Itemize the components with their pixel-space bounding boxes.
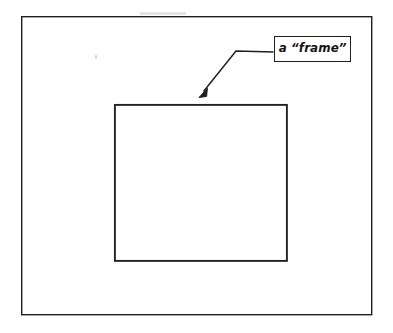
diagram-canvas: a “frame”	[0, 0, 393, 333]
callout-label-text: a “frame”	[279, 42, 347, 55]
callout-label-box: a “frame”	[274, 36, 351, 62]
inner-frame-rectangle	[115, 105, 287, 261]
arrowhead-icon	[199, 88, 207, 97]
callout-leader-line	[204, 51, 274, 92]
